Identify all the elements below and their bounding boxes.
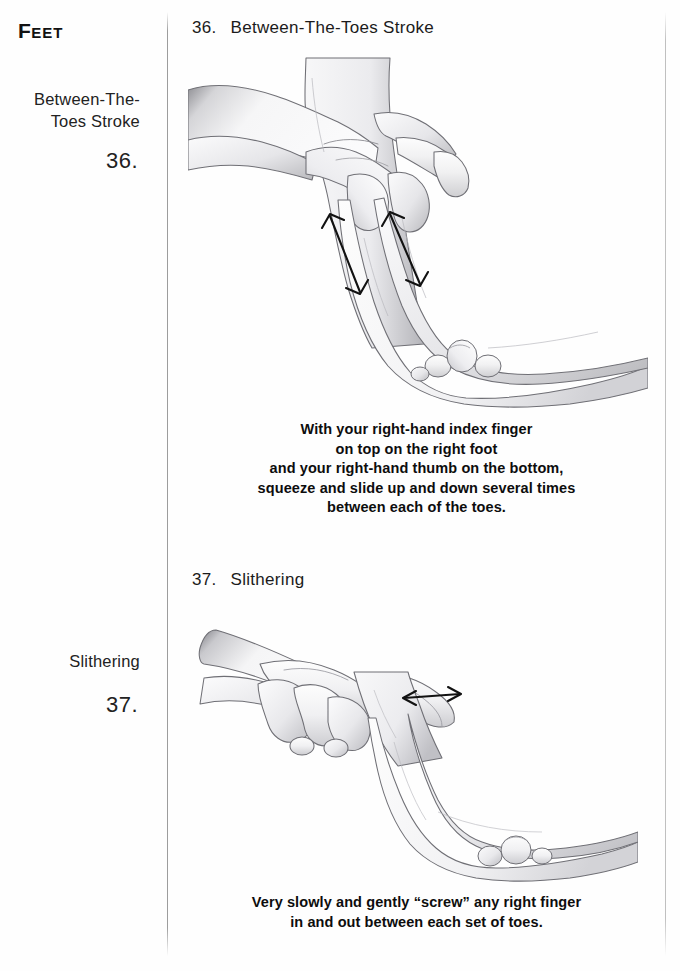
caption-line: and your right-hand thumb on the bottom, bbox=[168, 459, 665, 479]
step-title-36: Between-The-Toes Stroke bbox=[231, 18, 434, 37]
sidebar-number-37: 37. bbox=[6, 692, 138, 718]
caption-step-36: With your right-hand index finger on top… bbox=[168, 420, 665, 518]
sidebar-label-line-1: Between-The- bbox=[8, 88, 140, 110]
illustration-between-the-toes-stroke bbox=[188, 48, 648, 413]
main-column: 36.Between-The-Toes Stroke bbox=[168, 0, 665, 971]
caption-line: With your right-hand index finger bbox=[168, 420, 665, 440]
illustration-slithering bbox=[198, 612, 638, 884]
caption-line: between each of the toes. bbox=[168, 498, 665, 518]
caption-step-37: Very slowly and gently “screw” any right… bbox=[168, 893, 665, 932]
sidebar-label-line-1: Slithering bbox=[8, 650, 140, 672]
section-title-rest: EET bbox=[31, 24, 63, 41]
sidebar-item-slithering: Slithering bbox=[8, 650, 140, 672]
step-title-37: Slithering bbox=[231, 570, 305, 589]
caption-line: on top on the right foot bbox=[168, 440, 665, 460]
caption-line: in and out between each set of toes. bbox=[168, 913, 665, 933]
section-title-capital: F bbox=[18, 19, 31, 42]
step-number-37: 37. bbox=[192, 570, 217, 589]
figure-toes bbox=[478, 836, 552, 866]
sidebar-item-between-the-toes-stroke: Between-The- Toes Stroke bbox=[8, 88, 140, 132]
caption-line: squeeze and slide up and down several ti… bbox=[168, 479, 665, 499]
step-number-36: 36. bbox=[192, 18, 217, 37]
step-heading-36: 36.Between-The-Toes Stroke bbox=[192, 18, 434, 38]
figure-toes bbox=[411, 340, 501, 381]
page-border-right bbox=[665, 12, 666, 956]
manual-page: FEET Between-The- Toes Stroke 36. Slithe… bbox=[0, 0, 680, 971]
caption-line: Very slowly and gently “screw” any right… bbox=[168, 893, 665, 913]
sidebar-label-line-2: Toes Stroke bbox=[8, 110, 140, 132]
sidebar-number-36: 36. bbox=[6, 148, 138, 174]
step-heading-37: 37.Slithering bbox=[192, 570, 304, 590]
sidebar: FEET Between-The- Toes Stroke 36. Slithe… bbox=[0, 0, 150, 971]
section-title-feet: FEET bbox=[18, 19, 64, 43]
